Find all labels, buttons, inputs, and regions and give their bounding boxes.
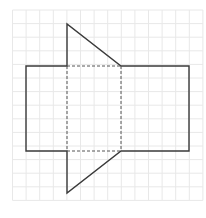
prism-net-diagram [0,0,206,218]
grid [13,10,203,200]
